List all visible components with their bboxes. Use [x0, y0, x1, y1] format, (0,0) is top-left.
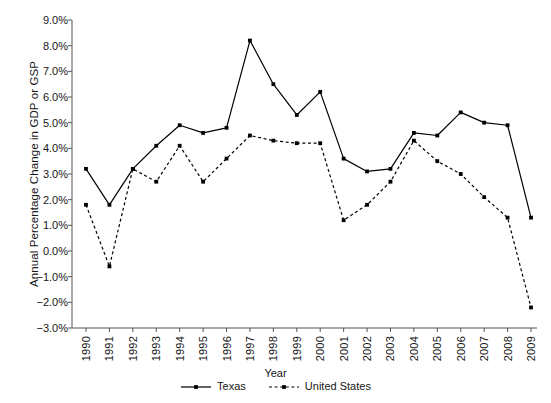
x-tick-label: 2001 — [338, 336, 350, 361]
x-tick-label: 1992 — [127, 336, 139, 361]
x-axis-title: Year — [0, 367, 551, 379]
line-chart: Annual Percentage Change in GDP or GSP 9… — [0, 0, 551, 403]
x-tick-label: 2006 — [455, 336, 467, 361]
legend-item-united-states: United States — [268, 381, 371, 392]
x-axis-tick-labels: 1990199119921993199419951996199719981999… — [0, 0, 551, 403]
x-tick-label: 1999 — [291, 336, 303, 361]
x-tick-label: 2008 — [502, 336, 514, 361]
legend-key-icon — [180, 382, 212, 392]
legend-label: Texas — [217, 381, 246, 392]
legend-key-icon — [268, 382, 300, 392]
x-tick-label: 1993 — [150, 336, 162, 361]
x-tick-label: 2002 — [361, 336, 373, 361]
legend-item-texas: Texas — [180, 381, 246, 392]
x-tick-label: 2009 — [525, 336, 537, 361]
x-tick-label: 2005 — [431, 336, 443, 361]
x-tick-label: 1998 — [267, 336, 279, 361]
x-tick-label: 1995 — [197, 336, 209, 361]
x-tick-label: 2003 — [384, 336, 396, 361]
x-tick-label: 2000 — [314, 336, 326, 361]
x-tick-label: 2007 — [478, 336, 490, 361]
chart-legend: TexasUnited States — [0, 381, 551, 392]
x-tick-label: 1997 — [244, 336, 256, 361]
x-tick-label: 1994 — [174, 336, 186, 361]
x-tick-label: 1991 — [103, 336, 115, 361]
legend-label: United States — [305, 381, 371, 392]
x-tick-label: 1990 — [80, 336, 92, 361]
x-tick-label: 1996 — [221, 336, 233, 361]
x-tick-label: 2004 — [408, 336, 420, 361]
